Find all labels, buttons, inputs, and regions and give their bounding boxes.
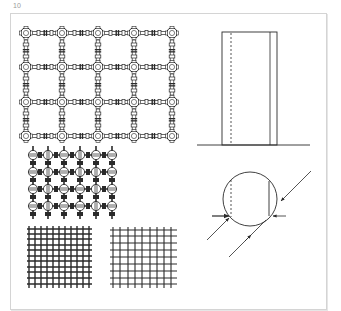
- open-mesh: [110, 227, 177, 288]
- column-elevation: [197, 32, 310, 145]
- node-grid-large: [20, 27, 179, 143]
- figure-drawings: [0, 0, 341, 311]
- circle-section: [207, 171, 311, 257]
- dense-mesh: [27, 226, 92, 288]
- node-grid-small: [28, 146, 116, 219]
